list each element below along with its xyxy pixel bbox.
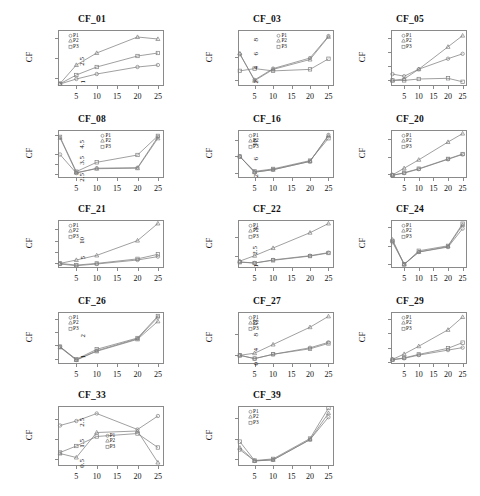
legend: P1P2P3 — [105, 433, 115, 449]
chart-panel: CF_27CF12510152025P1P2P3 — [192, 296, 342, 388]
y-tick-label: 1.5 — [78, 439, 86, 448]
chart-panel: CF_01CF51525510152025P1P2P3 — [12, 14, 172, 110]
y-tick-label: 1 — [251, 264, 259, 268]
series-layer — [192, 296, 342, 388]
legend-item: P3 — [248, 326, 258, 331]
legend-label: P3 — [406, 234, 411, 239]
legend-label: P3 — [73, 44, 78, 49]
legend: P1P2P3 — [401, 315, 411, 331]
chart-panel: CF_26CF1234510152025P1P2P3 — [12, 296, 172, 388]
legend: P1P2P3 — [68, 33, 78, 49]
legend-item: P3 — [401, 144, 411, 149]
legend-item: P3 — [100, 144, 110, 149]
legend-item: P3 — [248, 234, 258, 239]
legend-item: P3 — [68, 326, 78, 331]
legend-label: P3 — [253, 234, 258, 239]
chart-panel: CF_08CF46812510152025P1P2P3 — [12, 114, 172, 202]
y-tick-label: 2 — [78, 334, 86, 338]
y-tick-label: 4.5 — [78, 140, 86, 149]
chart-panel: CF_21CF2468510152025P1P2P3 — [12, 204, 172, 292]
y-tick-label: 2.5 — [251, 246, 259, 255]
series-layer — [12, 114, 172, 202]
series-layer — [345, 296, 475, 388]
legend-label: P3 — [110, 444, 115, 449]
chart-panel: CF_22CF510510152025P1P2P3 — [192, 204, 342, 292]
y-tick-label: 3.5 — [78, 156, 86, 165]
legend: P1P2P3 — [248, 409, 258, 425]
y-tick-label: 0.5 — [78, 459, 86, 468]
legend-label: P3 — [406, 144, 411, 149]
series-layer — [345, 114, 475, 202]
chart-panel: CF_05CF2468510152025P1P2P3 — [345, 14, 475, 110]
series-layer — [192, 390, 342, 490]
chart-panel: CF_03CF12.5510152025P1P2P3 — [192, 14, 342, 110]
y-tick-label: 10 — [251, 139, 259, 146]
legend-label: P3 — [281, 44, 286, 49]
series-layer — [345, 204, 475, 292]
y-tick-label: 4 — [251, 227, 259, 231]
legend: P1P2P3 — [401, 223, 411, 239]
y-tick-label: 6 — [251, 157, 259, 161]
y-tick-label: 4 — [251, 66, 259, 70]
legend-item: P3 — [401, 234, 411, 239]
series-layer — [12, 14, 172, 110]
legend-item: P3 — [68, 234, 78, 239]
legend: P1P2P3 — [401, 33, 411, 49]
y-tick-label: 5 — [78, 256, 86, 260]
legend: P1P2P3 — [276, 33, 286, 49]
y-tick-label: 6 — [251, 52, 259, 56]
y-tick-label: 12 — [251, 319, 259, 326]
y-tick-label: 2 — [251, 174, 259, 178]
legend-label: P3 — [253, 420, 258, 425]
series-layer — [12, 390, 172, 490]
y-tick-label: 1 — [78, 80, 86, 84]
legend: P1P2P3 — [248, 223, 258, 239]
chart-panel: CF_20CF2610510152025P1P2P3 — [345, 114, 475, 202]
series-layer — [192, 14, 342, 110]
y-tick-label: 8 — [251, 333, 259, 337]
y-tick-label: 0 — [251, 362, 259, 366]
legend-label: P3 — [406, 326, 411, 331]
y-tick-label: 10 — [78, 237, 86, 244]
legend: P1P2P3 — [68, 223, 78, 239]
chart-panel: CF_29CF04812510152025P1P2P3 — [345, 296, 475, 388]
chart-panel: CF_16CF2.53.54.5510152025P1P2P3 — [192, 114, 342, 202]
y-tick-label: 4 — [251, 348, 259, 352]
figure-canvas: CF_01CF51525510152025P1P2P3CF_03CF12.551… — [0, 0, 480, 496]
legend-item: P3 — [105, 444, 115, 449]
series-layer — [192, 114, 342, 202]
chart-panel: CF_39CF0.51.52.5510152025P1P2P3 — [192, 390, 342, 490]
y-tick-label: 1 — [78, 355, 86, 359]
chart-panel: CF_24CF12.54510152025P1P2P3 — [345, 204, 475, 292]
series-layer — [192, 204, 342, 292]
series-line — [393, 54, 463, 76]
y-tick-label: 2 — [251, 80, 259, 84]
legend-label: P3 — [253, 326, 258, 331]
legend-item: P3 — [68, 44, 78, 49]
y-tick-label: 8 — [251, 38, 259, 42]
series-layer — [12, 204, 172, 292]
y-tick-label: 2.5 — [78, 173, 86, 182]
legend: P1P2P3 — [68, 315, 78, 331]
legend-item: P3 — [401, 44, 411, 49]
legend-label: P3 — [406, 44, 411, 49]
series-layer — [12, 296, 172, 388]
series-layer — [345, 14, 475, 110]
legend-item: P3 — [401, 326, 411, 331]
legend-label: P3 — [73, 326, 78, 331]
chart-panel: CF_33CF0.20.61510152025P1P2P3 — [12, 390, 172, 490]
legend-item: P3 — [248, 420, 258, 425]
legend-label: P3 — [105, 144, 110, 149]
y-tick-label: 2.5 — [78, 418, 86, 427]
legend-item: P3 — [276, 44, 286, 49]
y-tick-label: 2.5 — [78, 57, 86, 66]
legend: P1P2P3 — [401, 133, 411, 149]
legend: P1P2P3 — [100, 133, 110, 149]
